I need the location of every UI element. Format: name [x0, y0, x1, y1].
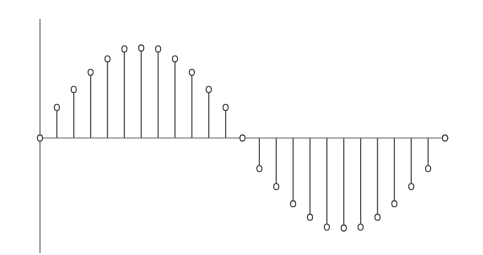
stem-marker [375, 214, 380, 220]
stem-marker [156, 46, 161, 52]
stem-marker [341, 225, 346, 231]
stem-marker [122, 46, 127, 52]
stem-marker [307, 214, 312, 220]
stem-marker [105, 56, 110, 62]
stem-marker [257, 166, 262, 172]
stem-marker [223, 104, 228, 110]
stem-marker [71, 86, 76, 92]
stem-marker [442, 135, 447, 141]
stem-marker [139, 45, 144, 51]
stem-marker [88, 69, 93, 75]
stem-marker [358, 224, 363, 230]
stem-marker [240, 135, 245, 141]
stem-marker [189, 69, 194, 75]
stem-marker [409, 184, 414, 190]
stem-marker [291, 201, 296, 207]
stem-marker [392, 201, 397, 207]
stem-marker [324, 224, 329, 230]
stem-marker [206, 86, 211, 92]
stem-marker [172, 56, 177, 62]
stem-marker [54, 104, 59, 110]
stem-marker [426, 166, 431, 172]
stem-plot [0, 0, 483, 255]
stem-marker [274, 184, 279, 190]
stem-marker [37, 135, 42, 141]
